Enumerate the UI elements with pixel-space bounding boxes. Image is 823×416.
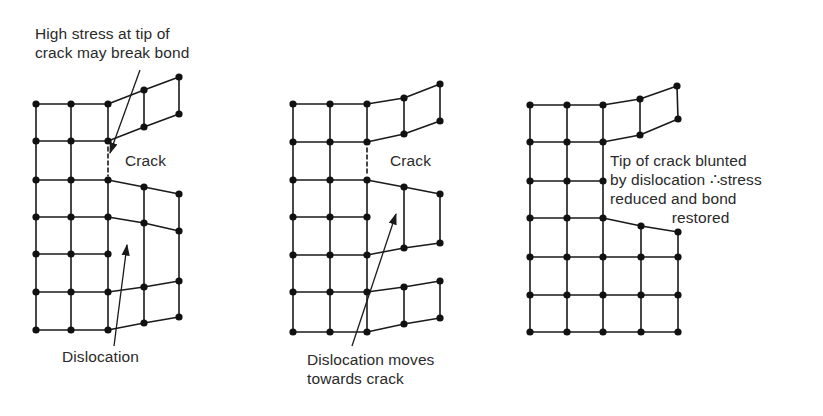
atomic-bond xyxy=(108,323,144,330)
atom-node xyxy=(104,250,111,257)
atom-node xyxy=(140,283,147,290)
atom-node xyxy=(363,138,370,145)
atom-node xyxy=(140,183,147,190)
atom-node xyxy=(326,213,333,220)
atom-node xyxy=(436,239,443,246)
atomic-bond xyxy=(603,135,640,142)
atom-node xyxy=(32,137,39,144)
atom-node xyxy=(674,291,681,298)
atom-node xyxy=(140,123,147,130)
atom-node xyxy=(175,73,182,80)
panel-2-crack-label: Crack xyxy=(390,151,431,170)
atom-node xyxy=(436,277,443,284)
panel-1-dislocation-label: Dislocation xyxy=(62,347,139,366)
atom-node xyxy=(636,131,643,138)
atom-node xyxy=(32,288,39,295)
atom-node xyxy=(436,190,443,197)
atom-node xyxy=(104,100,111,107)
atom-node xyxy=(67,326,74,333)
atom-node xyxy=(140,86,147,93)
atom-node xyxy=(526,214,533,221)
atomic-bond xyxy=(367,98,404,104)
atomic-bond xyxy=(144,317,179,323)
atom-node xyxy=(289,213,296,220)
atom-node xyxy=(526,291,533,298)
atom-node xyxy=(326,328,333,335)
atom-node xyxy=(289,251,296,258)
atomic-bond xyxy=(367,180,404,187)
atom-node xyxy=(363,100,370,107)
atom-node xyxy=(599,253,606,260)
atom-node xyxy=(175,190,182,197)
atomic-bond xyxy=(367,134,404,142)
atom-node xyxy=(436,117,443,124)
atomic-bond xyxy=(404,281,440,287)
atom-node xyxy=(326,288,333,295)
atom-node xyxy=(674,115,681,122)
atomic-bond xyxy=(108,180,144,187)
atom-node xyxy=(67,176,74,183)
atomic-bond xyxy=(640,119,678,135)
atom-node xyxy=(436,314,443,321)
atom-node xyxy=(67,137,74,144)
panel-1-crack-label: Crack xyxy=(125,151,166,170)
atom-node xyxy=(104,326,111,333)
atom-node xyxy=(673,82,680,89)
atom-node xyxy=(400,94,407,101)
atom-node xyxy=(599,138,606,145)
atom-node xyxy=(32,176,39,183)
atom-node xyxy=(436,80,443,87)
atomic-bond xyxy=(404,84,440,98)
atom-node xyxy=(599,291,606,298)
atom-node xyxy=(599,328,606,335)
atom-node xyxy=(400,130,407,137)
atomic-bond xyxy=(404,121,440,134)
atomic-bond xyxy=(108,90,144,104)
atom-node xyxy=(140,219,147,226)
atom-node xyxy=(289,288,296,295)
atomic-bond xyxy=(108,127,144,141)
atom-node xyxy=(363,328,370,335)
atom-node xyxy=(32,326,39,333)
atom-node xyxy=(326,251,333,258)
atom-node xyxy=(526,138,533,145)
atom-node xyxy=(289,176,296,183)
atom-node xyxy=(104,288,111,295)
atomic-bond xyxy=(603,99,640,105)
atomic-bond xyxy=(144,223,179,231)
atom-node xyxy=(363,176,370,183)
atom-node xyxy=(563,291,570,298)
atom-node xyxy=(400,244,407,251)
atom-node xyxy=(175,277,182,284)
panel-2-lattice xyxy=(289,80,443,346)
atom-node xyxy=(526,328,533,335)
atomic-bond xyxy=(404,187,440,194)
atomic-bond xyxy=(144,187,179,194)
atomic-bond xyxy=(144,77,179,90)
atom-node xyxy=(563,101,570,108)
atomic-bond xyxy=(367,287,404,292)
atomic-bond xyxy=(404,318,440,324)
panel-1-high-stress-annotation: High stress at tip of crack may break bo… xyxy=(35,24,190,62)
atom-node xyxy=(363,213,370,220)
atom-node xyxy=(104,137,111,144)
atom-node xyxy=(363,251,370,258)
atom-node xyxy=(400,283,407,290)
atom-node xyxy=(175,313,182,320)
atom-node xyxy=(526,177,533,184)
atom-node xyxy=(599,101,606,108)
atom-node xyxy=(637,328,644,335)
atomic-bond xyxy=(144,114,179,127)
atomic-bond xyxy=(367,324,404,332)
atom-node xyxy=(175,110,182,117)
atom-node xyxy=(289,328,296,335)
atom-node xyxy=(32,213,39,220)
atom-node xyxy=(104,176,111,183)
atomic-bond xyxy=(108,287,144,292)
panel-3-tip-blunted-annotation: Tip of crack blunted by dislocation ∴str… xyxy=(610,151,762,227)
atom-node xyxy=(67,250,74,257)
pointer-arrow-icon xyxy=(114,245,127,346)
atom-node xyxy=(32,100,39,107)
atom-node xyxy=(526,101,533,108)
atomic-bond xyxy=(367,248,404,255)
